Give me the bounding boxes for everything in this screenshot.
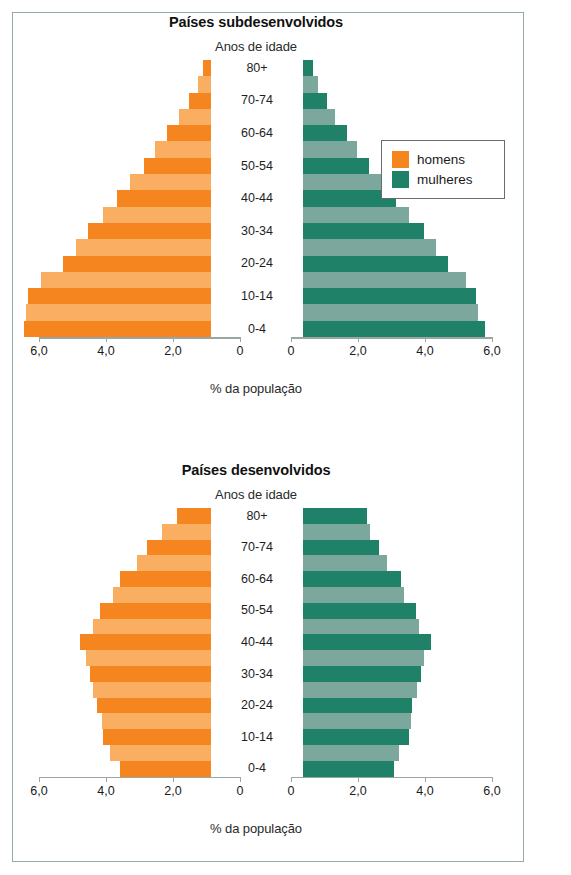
bar-homens: [28, 288, 211, 304]
bar-cell-homens: [9, 174, 211, 190]
axis-tick-label-left: 4,0: [97, 784, 114, 798]
chart-legend: homens mulheres: [381, 140, 505, 199]
axis-tick-left: [106, 777, 107, 782]
bar-homens: [117, 190, 211, 206]
bar-mulheres: [303, 555, 387, 571]
pyramid-row: [9, 745, 503, 761]
axis-line-right: [291, 777, 492, 779]
bar-mulheres: [303, 682, 417, 698]
pyramid-row: 30-34: [9, 223, 503, 239]
bar-cell-mulheres: [303, 587, 505, 603]
axis-tick-left: [173, 777, 174, 782]
bar-cell-homens: [9, 619, 211, 635]
axis-tick-left: [173, 337, 174, 342]
age-group-label: [212, 650, 302, 666]
bar-cell-homens: [9, 304, 211, 320]
bar-homens: [120, 571, 211, 587]
axis-line-left: [39, 777, 240, 779]
axis-tick-right: [358, 337, 359, 342]
bar-cell-mulheres: [303, 713, 505, 729]
age-group-label: 30-34: [212, 666, 302, 682]
bar-mulheres: [303, 288, 476, 304]
age-group-label: [212, 555, 302, 571]
bar-mulheres: [303, 174, 382, 190]
bar-cell-homens: [9, 256, 211, 272]
bar-homens: [103, 729, 211, 745]
bar-cell-mulheres: [303, 729, 505, 745]
age-group-label: 0-4: [212, 321, 302, 337]
x-axis-1: 002,02,04,04,06,06,0: [9, 777, 503, 807]
bar-mulheres: [303, 587, 404, 603]
bar-mulheres: [303, 729, 409, 745]
bar-homens: [24, 321, 211, 337]
axis-tick-label-right: 6,0: [483, 344, 500, 358]
bar-homens: [93, 682, 211, 698]
pyramid-row: [9, 239, 503, 255]
pyramid-row: 30-34: [9, 666, 503, 682]
axis-tick-left: [106, 337, 107, 342]
bar-mulheres: [303, 571, 401, 587]
age-group-label: [212, 713, 302, 729]
bar-cell-mulheres: [303, 603, 505, 619]
bar-homens: [93, 619, 211, 635]
pyramid-row: [9, 524, 503, 540]
page-title-1: Países desenvolvidos: [0, 452, 512, 478]
bar-homens: [113, 587, 211, 603]
bar-cell-homens: [9, 141, 211, 157]
bar-cell-mulheres: [303, 634, 505, 650]
bar-homens: [162, 524, 211, 540]
age-group-label: [212, 141, 302, 157]
bar-cell-homens: [9, 207, 211, 223]
bar-mulheres: [303, 239, 436, 255]
age-group-label: [212, 682, 302, 698]
bar-cell-mulheres: [303, 619, 505, 635]
age-group-label: 20-24: [212, 698, 302, 714]
bar-mulheres: [303, 76, 318, 92]
age-group-label: 10-14: [212, 729, 302, 745]
age-group-label: [212, 239, 302, 255]
axis-tick-label-right: 6,0: [483, 784, 500, 798]
bar-cell-homens: [9, 682, 211, 698]
bar-homens: [144, 158, 211, 174]
bar-homens: [167, 125, 211, 141]
legend-item-homens: homens: [392, 151, 496, 168]
age-group-label: 80+: [212, 60, 302, 76]
bar-mulheres: [303, 158, 369, 174]
pyramid-rows-1: 0-410-1420-2430-3440-4450-5460-6470-7480…: [9, 508, 503, 777]
bar-cell-homens: [9, 729, 211, 745]
bar-mulheres: [303, 223, 424, 239]
bar-cell-homens: [9, 223, 211, 239]
bar-mulheres: [303, 540, 379, 556]
bar-cell-mulheres: [303, 321, 505, 337]
pyramid-row: [9, 207, 503, 223]
bar-mulheres: [303, 60, 313, 76]
age-group-label: 20-24: [212, 256, 302, 272]
axis-tick-left: [39, 777, 40, 782]
bar-cell-mulheres: [303, 650, 505, 666]
bar-cell-homens: [9, 603, 211, 619]
bar-cell-homens: [9, 76, 211, 92]
age-group-label: 80+: [212, 508, 302, 524]
page-title-0: Países subdesenvolvidos: [0, 4, 512, 30]
age-group-label: [212, 207, 302, 223]
pyramid-row: 10-14: [9, 729, 503, 745]
age-axis-title-0: Anos de idade: [0, 30, 512, 54]
bar-mulheres: [303, 272, 466, 288]
bar-cell-mulheres: [303, 93, 505, 109]
age-axis-title-1: Anos de idade: [0, 478, 512, 502]
pyramid-row: [9, 555, 503, 571]
axis-tick-label-left: 4,0: [97, 344, 114, 358]
bar-mulheres: [303, 109, 335, 125]
age-group-label: 50-54: [212, 158, 302, 174]
bar-cell-mulheres: [303, 666, 505, 682]
pyramid-row: [9, 76, 503, 92]
bar-homens: [203, 60, 211, 76]
bar-cell-homens: [9, 571, 211, 587]
bar-cell-homens: [9, 109, 211, 125]
age-group-label: 40-44: [212, 190, 302, 206]
x-axis-caption-1: % da população: [0, 807, 512, 836]
bar-cell-mulheres: [303, 555, 505, 571]
age-group-label: [212, 619, 302, 635]
pyramid-row: [9, 109, 503, 125]
age-group-label: [212, 76, 302, 92]
